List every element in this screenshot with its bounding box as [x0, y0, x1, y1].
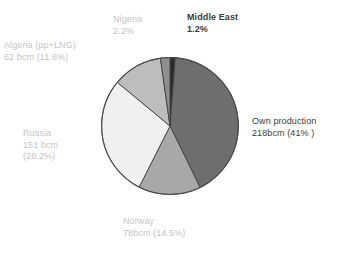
slice-label-own-production: Own production 218bcm (41% ) [252, 116, 316, 139]
slice-label-nigeria: Nigeria 2.2% [113, 14, 142, 37]
slice-label-russia-line3: (28.2%) [23, 151, 58, 163]
slice-label-algeria: Algeria (pp+LNG) 62 bcm (11.6%) [4, 40, 76, 63]
slice-label-nigeria-line2: 2.2% [113, 26, 142, 38]
pie-chart-graphic [98, 50, 242, 202]
slice-label-algeria-line2: 62 bcm (11.6%) [4, 52, 76, 64]
slice-label-russia-line2: 151 bcm [23, 140, 58, 152]
slice-label-middle-east-line2: 1.2% [187, 24, 238, 36]
slice-label-norway: Norway 78bcm (14.5%) [123, 216, 185, 239]
slice-label-middle-east-line1: Middle East [187, 12, 238, 24]
slice-label-russia: Russia 151 bcm (28.2%) [23, 128, 58, 163]
slice-label-norway-line2: 78bcm (14.5%) [123, 228, 185, 240]
slice-label-norway-line1: Norway [123, 216, 185, 228]
slice-label-algeria-line1: Algeria (pp+LNG) [4, 40, 76, 52]
slice-label-russia-line1: Russia [23, 128, 58, 140]
pie-svg [98, 50, 242, 202]
slice-label-middle-east: Middle East 1.2% [187, 12, 238, 35]
pie-chart-figure: Algeria (pp+LNG) 62 bcm (11.6%) Nigeria … [0, 0, 347, 256]
slice-label-own-production-line2: 218bcm (41% ) [252, 128, 316, 140]
pie-slice-group [102, 58, 239, 195]
slice-label-nigeria-line1: Nigeria [113, 14, 142, 26]
slice-label-own-production-line1: Own production [252, 116, 316, 128]
